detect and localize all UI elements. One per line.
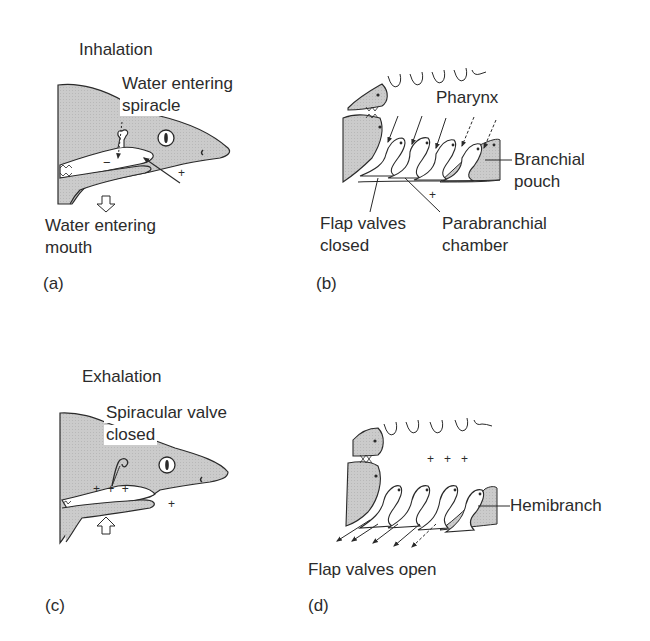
pharynx-label: Pharynx [436, 88, 498, 108]
spiracle-label-line1: Water entering [120, 74, 235, 94]
branchial-pouch-label-line2: pouch [514, 172, 560, 192]
exhalation-title: Exhalation [82, 367, 161, 387]
parabranchial-pressure-sign: + [429, 185, 436, 205]
gill-section-exhalation [337, 418, 510, 547]
panel-label-d: (d) [308, 596, 329, 616]
external-pressure-sign: + [168, 494, 175, 514]
spiracular-valve-label-line2: closed [104, 425, 157, 445]
pharynx-pressure-signs: + + + [427, 449, 468, 469]
spiracular-valve-label-line1: Spiracular valve [104, 403, 229, 423]
water-in-arrow-icon [97, 196, 115, 212]
flap-valves-closed-label-line1: Flap valves [320, 214, 406, 234]
panel-label-c: (c) [45, 596, 65, 616]
buccal-pressure-signs: + + + [93, 479, 131, 499]
panel-label-b: (b) [316, 274, 337, 294]
spiracle-label-line2: spiracle [120, 96, 183, 116]
parabranchial-label-line1: Parabranchial [442, 214, 547, 234]
diagram-canvas [0, 0, 650, 641]
mouth-label-line1: Water entering [45, 216, 156, 236]
branchial-pouch-label-line1: Branchial [514, 150, 585, 170]
hemibranch-label: Hemibranch [510, 496, 602, 516]
negative-pressure-sign: − [103, 153, 111, 173]
positive-pressure-sign: + [178, 163, 185, 183]
mouth-label-line2: mouth [45, 238, 92, 258]
flap-valves-closed-label-line2: closed [320, 236, 369, 256]
flap-valves-open-label: Flap valves open [308, 560, 437, 580]
water-out-arrow-icon [97, 517, 115, 534]
panel-label-a: (a) [43, 274, 64, 294]
parabranchial-label-line2: chamber [442, 236, 508, 256]
inhalation-title: Inhalation [79, 40, 153, 60]
